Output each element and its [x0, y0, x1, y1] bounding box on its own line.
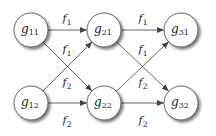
diagram-canvas: f1f1f2f2f1f1f2f2 g11g12g21g22g31g32 [0, 0, 216, 136]
nodes-layer: g11g12g21g22g31g32 [14, 13, 198, 120]
node-g21: g21 [87, 13, 121, 47]
edge-label-g21-g32: f1 [138, 43, 148, 58]
node-g22: g22 [87, 86, 121, 120]
edge-label-g22-g31: f2 [138, 76, 148, 91]
edge-label-g22-g32: f2 [138, 114, 148, 129]
node-g12: g12 [14, 86, 48, 120]
edge-label-g11-g21: f1 [62, 12, 72, 27]
node-g32: g32 [164, 86, 198, 120]
node-g11: g11 [14, 13, 48, 47]
edge-label-g11-g22: f1 [62, 43, 72, 58]
edge-label-g12-g21: f2 [62, 76, 72, 91]
edge-label-g12-g22: f2 [62, 114, 72, 129]
edge-label-g21-g31: f1 [138, 12, 148, 27]
node-g31: g31 [164, 13, 198, 47]
